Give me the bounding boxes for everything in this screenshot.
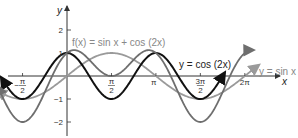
x-axis-label: x (281, 76, 288, 87)
x-tick-label: 2π (240, 78, 250, 87)
function-graph: −π2π2π3π22π21−1−2 y x f(x) = sin x + cos… (0, 0, 298, 138)
cos-curve-label: y = cos (2x) (179, 59, 231, 70)
x-tick-label: π2 (108, 77, 115, 95)
y-tick-label: 1 (59, 49, 64, 58)
y-tick-label: 2 (59, 26, 64, 35)
svg-text:2: 2 (109, 86, 114, 95)
sin-curve-label: y = sin x (259, 66, 296, 77)
svg-text:π: π (20, 77, 26, 86)
x-tick-label: π (151, 78, 157, 87)
x-tick-label: 3π2 (195, 77, 205, 95)
x-tick-label: −π2 (15, 77, 27, 95)
svg-text:2: 2 (20, 86, 25, 95)
svg-text:π: π (109, 77, 115, 86)
svg-text:3π: 3π (195, 77, 205, 86)
f-curve-label: f(x) = sin x + cos (2x) (72, 37, 165, 48)
y-tick-label: −2 (54, 118, 64, 127)
svg-text:2: 2 (198, 86, 203, 95)
y-axis-label: y (56, 5, 63, 16)
y-tick-label: −1 (54, 95, 64, 104)
